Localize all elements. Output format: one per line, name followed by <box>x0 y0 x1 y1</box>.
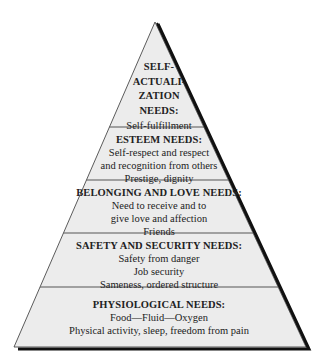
tier-detail: Self-fulfillment <box>0 119 318 132</box>
tier-title: SELF- <box>0 60 318 75</box>
needs-pyramid-diagram: SELF- ACTUALI- ZATION NEEDS: Self-fulfil… <box>0 0 318 355</box>
tier-physiological: PHYSIOLOGICAL NEEDS: Food—Fluid—Oxygen P… <box>0 298 318 337</box>
tier-detail: Sameness, ordered structure <box>0 278 318 291</box>
tier-detail: Need to receive and to <box>0 199 318 212</box>
tier-title: PHYSIOLOGICAL NEEDS: <box>0 298 318 311</box>
tier-detail: Safety from danger <box>0 252 318 265</box>
tier-title: SAFETY AND SECURITY NEEDS: <box>0 239 318 252</box>
tier-detail: and recognition from others <box>0 159 318 172</box>
tier-safety-security: SAFETY AND SECURITY NEEDS: Safety from d… <box>0 239 318 291</box>
tier-title: ESTEEM NEEDS: <box>0 133 318 146</box>
tier-detail: give love and affection <box>0 212 318 225</box>
tier-detail: Friends <box>0 225 318 238</box>
tier-title: ZATION <box>0 89 318 104</box>
tier-title: BELONGING AND LOVE NEEDS: <box>0 186 318 199</box>
tier-esteem: ESTEEM NEEDS: Self-respect and respect a… <box>0 133 318 185</box>
tier-detail: Physical activity, sleep, freedom from p… <box>0 324 318 337</box>
tier-detail: Food—Fluid—Oxygen <box>0 311 318 324</box>
tier-title: NEEDS: <box>0 104 318 119</box>
tier-detail: Job security <box>0 265 318 278</box>
tier-title: ACTUALI- <box>0 75 318 90</box>
tier-detail: Prestige, dignity <box>0 172 318 185</box>
tier-detail: Self-respect and respect <box>0 146 318 159</box>
tier-self-actualization: SELF- ACTUALI- ZATION NEEDS: Self-fulfil… <box>0 60 318 132</box>
tier-belonging-love: BELONGING AND LOVE NEEDS: Need to receiv… <box>0 186 318 238</box>
